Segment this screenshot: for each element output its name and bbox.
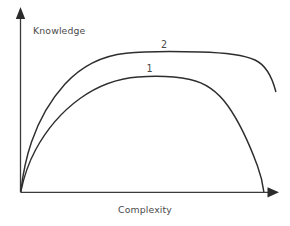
- x-axis-label: Complexity: [118, 204, 172, 215]
- x-axis-arrow-icon: [268, 187, 280, 197]
- knowledge-complexity-chart: Knowledge Complexity 2 1: [0, 0, 290, 226]
- curve-label-1: 1: [146, 63, 152, 74]
- y-axis-label: Knowledge: [33, 25, 86, 36]
- y-axis-arrow-icon: [16, 7, 25, 19]
- curve-label-2: 2: [161, 39, 167, 50]
